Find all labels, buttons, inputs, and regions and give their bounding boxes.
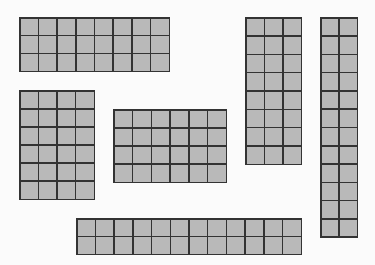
unit-square: [152, 129, 169, 146]
unit-square: [190, 237, 207, 253]
unit-square: [134, 220, 151, 236]
unit-square: [247, 37, 264, 54]
unit-square: [152, 111, 169, 128]
rect-6x4: [113, 109, 227, 183]
unit-square: [340, 37, 357, 54]
unit-square: [39, 110, 56, 127]
unit-square: [77, 36, 94, 52]
unit-square: [227, 220, 244, 236]
rect-8x3: [19, 17, 170, 72]
unit-square: [152, 147, 169, 164]
unit-square: [133, 147, 150, 164]
unit-square: [190, 220, 207, 236]
rect-3x8: [245, 17, 302, 165]
unit-square: [58, 19, 75, 35]
diagram-canvas: [0, 0, 375, 265]
unit-square: [171, 147, 188, 164]
unit-square: [133, 36, 150, 52]
unit-square: [190, 165, 207, 182]
unit-square: [133, 129, 150, 146]
unit-square: [247, 110, 264, 127]
unit-square: [21, 182, 38, 199]
unit-square: [208, 165, 225, 182]
unit-square: [58, 146, 75, 163]
unit-square: [284, 73, 301, 90]
unit-square: [58, 128, 75, 145]
unit-square: [76, 182, 93, 199]
unit-square: [265, 37, 282, 54]
unit-square: [284, 55, 301, 72]
unit-square: [58, 92, 75, 109]
unit-square: [39, 92, 56, 109]
unit-square: [247, 19, 264, 36]
unit-square: [284, 92, 301, 109]
unit-square: [115, 147, 132, 164]
unit-square: [21, 110, 38, 127]
unit-square: [134, 237, 151, 253]
unit-square: [322, 19, 339, 36]
unit-square: [208, 111, 225, 128]
unit-square: [284, 19, 301, 36]
unit-square: [39, 182, 56, 199]
unit-square: [340, 220, 357, 237]
unit-square: [133, 165, 150, 182]
unit-square: [76, 92, 93, 109]
unit-square: [208, 220, 225, 236]
unit-square: [171, 220, 188, 236]
unit-square: [246, 220, 263, 236]
unit-square: [152, 220, 169, 236]
unit-square: [265, 237, 282, 253]
unit-square: [322, 183, 339, 200]
unit-square: [190, 129, 207, 146]
unit-square: [115, 220, 132, 236]
unit-square: [265, 128, 282, 145]
unit-square: [322, 73, 339, 90]
unit-square: [171, 237, 188, 253]
unit-square: [322, 128, 339, 145]
unit-square: [340, 183, 357, 200]
unit-square: [340, 110, 357, 127]
unit-square: [265, 147, 282, 164]
unit-square: [171, 111, 188, 128]
unit-square: [39, 164, 56, 181]
unit-square: [171, 165, 188, 182]
unit-square: [39, 146, 56, 163]
unit-square: [58, 36, 75, 52]
unit-square: [96, 237, 113, 253]
unit-square: [21, 54, 38, 70]
unit-square: [227, 237, 244, 253]
unit-square: [340, 201, 357, 218]
unit-square: [58, 182, 75, 199]
unit-square: [152, 237, 169, 253]
unit-square: [114, 54, 131, 70]
unit-square: [39, 54, 56, 70]
unit-square: [115, 165, 132, 182]
unit-square: [21, 164, 38, 181]
unit-square: [95, 54, 112, 70]
unit-square: [322, 92, 339, 109]
unit-square: [322, 110, 339, 127]
unit-square: [151, 36, 168, 52]
unit-square: [284, 110, 301, 127]
unit-square: [340, 165, 357, 182]
unit-square: [39, 36, 56, 52]
rect-4x6: [19, 90, 95, 200]
unit-square: [96, 220, 113, 236]
unit-square: [58, 164, 75, 181]
unit-square: [283, 237, 300, 253]
unit-square: [152, 165, 169, 182]
unit-square: [21, 128, 38, 145]
unit-square: [133, 54, 150, 70]
unit-square: [76, 164, 93, 181]
unit-square: [208, 237, 225, 253]
unit-square: [265, 92, 282, 109]
rect-12x2: [76, 218, 302, 255]
unit-square: [115, 129, 132, 146]
unit-square: [115, 237, 132, 253]
unit-square: [21, 19, 38, 35]
unit-square: [322, 165, 339, 182]
unit-square: [340, 19, 357, 36]
unit-square: [265, 55, 282, 72]
unit-square: [265, 110, 282, 127]
unit-square: [115, 111, 132, 128]
